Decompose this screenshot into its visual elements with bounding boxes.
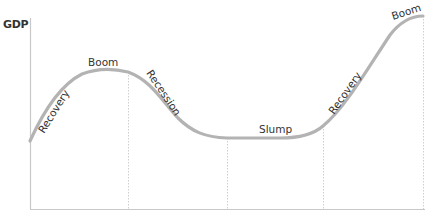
business-cycle-chart: Recovery Boom Recession Slump Recovery B… <box>0 0 433 216</box>
label-recovery-1: Recovery <box>36 87 72 135</box>
gdp-curve <box>30 16 423 141</box>
label-recovery-2: Recovery <box>326 69 364 116</box>
label-slump: Slump <box>259 123 292 135</box>
label-recession: Recession <box>144 67 183 117</box>
label-boom-1: Boom <box>88 56 118 68</box>
